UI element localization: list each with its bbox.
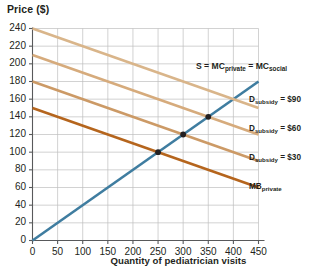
supply-label-text: S = MC [196,61,225,71]
x-axis-title: Quantity of pediatrician visits [0,255,329,266]
y-tick-label: 220 [0,40,26,51]
y-tick-label: 140 [0,110,26,121]
chart-container: Price ($) 240220200180160140120100806040… [0,0,329,276]
supply-label-mid: = MC [246,61,269,71]
series-label-d-subsidy-30: Dsubsidy = $30 [249,153,301,162]
mbp-label-sub: private [262,185,282,192]
y-tick-label: 80 [0,163,26,174]
d90-label-value: = $90 [278,95,301,104]
mbp-label-prefix: MB [249,182,262,191]
y-tick-label: 240 [0,22,26,33]
y-tick-label: 200 [0,57,26,68]
series-label-mb-private: MBprivate [249,182,282,191]
y-tick-label: 160 [0,93,26,104]
y-tick-label: 0 [0,234,26,245]
supply-label-sub-private: private [225,65,246,72]
series-label-supply: S = MCprivate = MCsocial [196,61,287,71]
y-tick-label: 120 [0,128,26,139]
d60-label-sub: subsidy [255,127,278,134]
series-label-d-subsidy-90: Dsubsidy = $90 [249,95,301,104]
y-tick-label: 20 [0,216,26,227]
d30-label-sub: subsidy [255,156,278,163]
chart-axis-lines [33,28,265,241]
y-tick-label: 40 [0,199,26,210]
y-tick-label: 100 [0,146,26,157]
chart-plot-svg [0,0,329,276]
y-tick-label: 180 [0,75,26,86]
series-label-d-subsidy-60: Dsubsidy = $60 [249,124,301,133]
supply-label-sub-social: social [269,65,287,72]
d30-label-value: = $30 [278,153,301,162]
d90-label-sub: subsidy [255,98,278,105]
d60-label-value: = $60 [278,124,301,133]
y-tick-label: 60 [0,181,26,192]
